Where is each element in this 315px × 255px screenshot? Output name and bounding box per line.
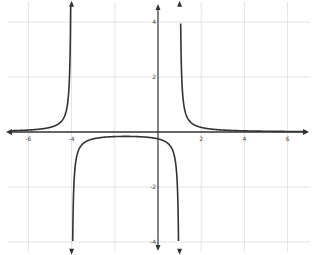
axes	[10, 6, 306, 249]
curve-right-up-arrow-icon	[177, 1, 182, 7]
function-graph: -6-424642-2-4	[0, 0, 315, 255]
y-axis-down-arrow-icon	[156, 245, 161, 251]
y-tick-label: 2	[152, 73, 156, 80]
curve-right-branch	[181, 23, 307, 131]
curve-middle-branch	[73, 136, 179, 241]
y-tick-label: -4	[150, 238, 156, 245]
x-axis-right-arrow-icon	[303, 129, 309, 135]
curves	[11, 5, 307, 241]
y-axis-up-arrow-icon	[156, 4, 161, 10]
y-tick-label: 4	[152, 18, 156, 25]
x-tick-label: -4	[69, 135, 75, 142]
curve-left-branch	[11, 5, 71, 131]
y-tick-label: -2	[150, 183, 156, 190]
curve-middle-right-down-arrow-icon	[177, 249, 182, 255]
curve-left-up-arrow-icon	[69, 1, 74, 7]
x-tick-label: 2	[199, 135, 203, 142]
curve-middle-left-down-arrow-icon	[69, 249, 74, 255]
x-tick-label: 6	[286, 135, 290, 142]
x-axis-left-arrow-icon	[6, 129, 12, 135]
x-tick-label: -6	[25, 135, 31, 142]
x-tick-label: 4	[242, 135, 246, 142]
